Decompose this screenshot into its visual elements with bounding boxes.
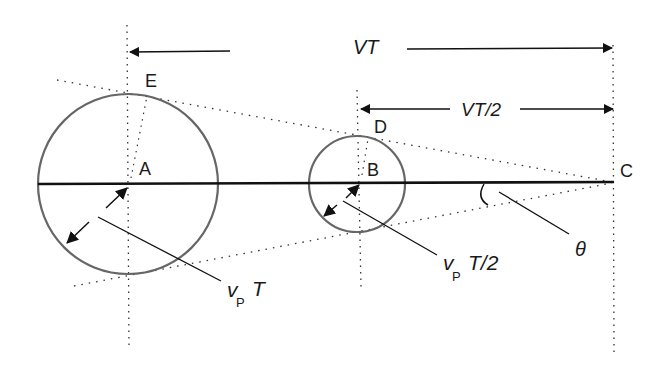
- vt-half-label: VT/2: [461, 99, 502, 120]
- mach-cone-diagram: VT VT/2 E A D B C v P T v P T/2 θ: [0, 0, 661, 366]
- time-half-symbol: T/2: [468, 251, 499, 274]
- time-symbol-t: T: [252, 277, 267, 300]
- angle-label-theta: θ: [575, 238, 586, 260]
- leader-line-theta: [499, 192, 569, 234]
- vertical-guide-b: [357, 90, 361, 288]
- leader-line-vpt: [98, 217, 221, 281]
- point-label-d: D: [374, 117, 387, 137]
- angle-arc-theta: [481, 184, 488, 205]
- radius-arrow-b-inner: [346, 185, 359, 198]
- vt-arrow-left: [130, 51, 230, 52]
- radius-label-small: v P T/2: [443, 251, 499, 284]
- radius-arrow-b-outer: [324, 205, 337, 216]
- velocity-subscript-p: P: [236, 295, 245, 310]
- point-label-b: B: [367, 160, 379, 180]
- vertical-guide-a: [127, 25, 129, 350]
- leader-line-vpt-half: [343, 201, 437, 255]
- source-path-line: [38, 182, 614, 184]
- vertical-guide-c: [613, 45, 614, 352]
- radius-arrow-a-outer: [67, 222, 89, 243]
- vt-label: VT: [353, 36, 380, 58]
- vt-arrow-right: [407, 48, 612, 49]
- point-label-a: A: [139, 159, 151, 179]
- velocity-subscript-p-small: P: [452, 269, 461, 284]
- radius-arrow-a-inner: [106, 188, 127, 208]
- radius-label-large: v P T: [227, 277, 267, 310]
- point-label-c: C: [620, 161, 633, 181]
- point-label-e: E: [145, 71, 157, 91]
